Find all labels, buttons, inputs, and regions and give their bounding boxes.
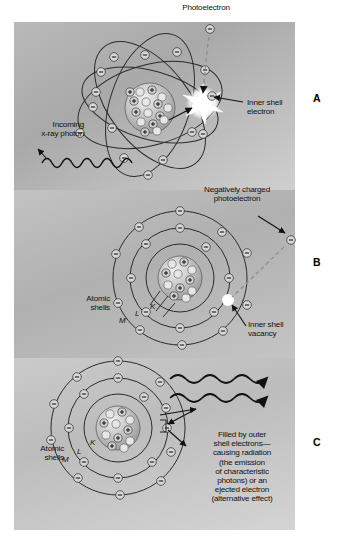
photoelectron-label: Photoelectron xyxy=(158,3,254,12)
shell-label-m-b: M xyxy=(119,316,126,325)
panel-marker-c: C xyxy=(313,436,321,448)
shell-label-k-b: K xyxy=(150,302,155,311)
shell-label-l-c: L xyxy=(77,447,81,456)
negatively-charged-photoelectron-label: Negatively charged photoelectron xyxy=(182,185,292,203)
figure-canvas: Photoelectron Incoming x-ray photon Inne… xyxy=(0,0,341,543)
shell-label-m-c: M xyxy=(62,455,69,464)
panel-marker-b: B xyxy=(313,256,321,268)
shell-label-l-b: L xyxy=(135,309,139,318)
incoming-photon-label: Incoming x-ray photon xyxy=(8,120,84,138)
inner-shell-vacancy-label: Inner shell vacancy xyxy=(248,320,314,338)
atomic-shells-label-b: Atomic shells xyxy=(58,294,110,312)
shell-label-k-c: K xyxy=(90,438,95,447)
atomic-shells-label-c: Atomic shells xyxy=(12,444,64,462)
filled-by-outer-shell-label: Filled by outer shell electrons— causing… xyxy=(192,430,292,504)
inner-shell-electron-label: Inner shell electron xyxy=(247,98,317,116)
panel-marker-a: A xyxy=(313,92,321,104)
